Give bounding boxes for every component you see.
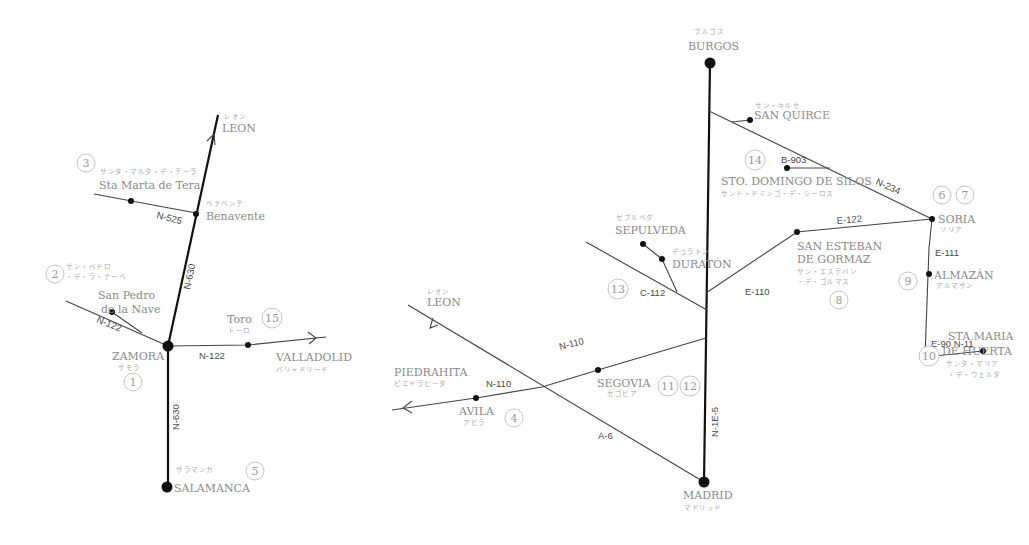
san-esteban-kana-2: ・デ・ゴルマス bbox=[797, 277, 850, 286]
san-pedro-label-2: de la Nave bbox=[101, 303, 161, 316]
badge-4: 4 bbox=[505, 409, 523, 427]
road-label-e110: E-110 bbox=[745, 286, 770, 297]
avila-kana: アビラ bbox=[463, 418, 486, 427]
road-label-a6: A-6 bbox=[598, 430, 613, 441]
sepulveda-dot bbox=[640, 241, 646, 247]
badge-2: 2 bbox=[46, 265, 64, 283]
soria-kana: ソリア bbox=[940, 226, 963, 234]
san-esteban-label-1: SAN ESTEBAN bbox=[797, 240, 883, 253]
burgos-kana: ブルゴス bbox=[694, 27, 724, 36]
sepulveda-kana: セプルベダ bbox=[616, 213, 654, 222]
leon-label: LEON bbox=[222, 122, 256, 135]
sepulveda-label: SEPULVEDA bbox=[615, 224, 687, 237]
san-pedro-label-1: San Pedro bbox=[98, 289, 155, 302]
svg-text:5: 5 bbox=[252, 465, 259, 478]
badge-10: 10 bbox=[919, 346, 939, 366]
road-label-n525: N-525 bbox=[156, 209, 184, 226]
road-label-n630-south: N-630 bbox=[170, 404, 181, 430]
sta-marta-kana: サンタ・マルタ・デ・テーラ bbox=[100, 167, 198, 176]
badge-1: 1 bbox=[124, 373, 142, 391]
avila-dot bbox=[473, 395, 479, 401]
segovia-kana: セゴビア bbox=[607, 389, 637, 398]
san-esteban-dot bbox=[794, 229, 800, 235]
benavente-kana: ベナベンテ bbox=[206, 200, 244, 208]
sta-maria-label-2: DE HUERTA bbox=[942, 345, 1013, 358]
benavente-label: Benavente bbox=[206, 210, 265, 223]
toro-label: Toro bbox=[227, 313, 252, 326]
san-esteban-label-2: DE GORMAZ bbox=[797, 253, 871, 266]
badge-8: 8 bbox=[830, 291, 848, 309]
right-map: ブルゴス BURGOS サン・キルセ SAN QUIRCE B-903 STO.… bbox=[392, 27, 1015, 512]
road-label-n122-east: N-122 bbox=[199, 350, 225, 361]
piedrahita-label: PIEDRAHITA bbox=[394, 366, 468, 379]
silos-dot bbox=[784, 165, 790, 171]
road-label-e111: E-111 bbox=[935, 247, 959, 258]
sta-maria-kana-2: ・デ・ウェルタ bbox=[948, 370, 1001, 379]
burgos-label: BURGOS bbox=[688, 40, 739, 53]
leon-kana-right: レオン bbox=[427, 288, 450, 296]
svg-text:6: 6 bbox=[939, 189, 946, 202]
svg-text:9: 9 bbox=[905, 275, 912, 288]
sta-marta-label: Sta Marta de Tera bbox=[99, 179, 201, 192]
road-a6 bbox=[408, 305, 704, 482]
svg-text:3: 3 bbox=[83, 157, 90, 170]
badge-13: 13 bbox=[608, 279, 628, 299]
duraton-label: DURATÓN bbox=[672, 257, 732, 271]
badge-15: 15 bbox=[262, 308, 282, 328]
madrid-kana: マドリッド bbox=[684, 504, 722, 512]
soria-dot bbox=[929, 216, 935, 222]
svg-text:12: 12 bbox=[683, 380, 697, 393]
salamanca-label: SALAMANCA bbox=[174, 482, 251, 495]
segovia-dot bbox=[595, 367, 601, 373]
badge-6: 6 bbox=[933, 186, 951, 204]
duraton-dot bbox=[659, 256, 665, 262]
badge-14: 14 bbox=[745, 150, 765, 170]
almazan-kana: アルマサン bbox=[936, 282, 974, 290]
road-label-e122: E-122 bbox=[836, 213, 862, 226]
svg-text:8: 8 bbox=[836, 294, 843, 307]
svg-text:10: 10 bbox=[922, 350, 936, 363]
leon-kana: レオン bbox=[224, 113, 247, 121]
salamanca-kana: サラマンカ bbox=[176, 466, 214, 474]
leon-label-right: LEON bbox=[427, 296, 461, 309]
zamora-kana: サモラ bbox=[118, 364, 141, 372]
soria-label: SORIA bbox=[938, 213, 976, 226]
valladolid-label: VALLADOLID bbox=[275, 351, 352, 364]
sta-marta-dot bbox=[128, 198, 134, 204]
silos-kana: サント・ドミンゴ・デ・シーロス bbox=[721, 189, 834, 198]
badge-3: 3 bbox=[77, 154, 95, 172]
svg-text:4: 4 bbox=[511, 412, 518, 425]
burgos-dot bbox=[705, 58, 716, 69]
road-label-b903: B-903 bbox=[781, 154, 806, 165]
piedrahita-kana: ピエドラヒータ bbox=[394, 379, 447, 388]
salamanca-dot bbox=[162, 482, 173, 493]
san-quirce-label: SAN QUIRCE bbox=[754, 109, 830, 122]
route-map: レオン LEON サンタ・マルタ・デ・テーラ Sta Marta de Tera… bbox=[0, 0, 1029, 545]
badge-7: 7 bbox=[956, 186, 974, 204]
zamora-label: ZAMORA bbox=[112, 350, 165, 363]
almazan-dot bbox=[926, 271, 932, 277]
road-label-n110-east: N-110 bbox=[558, 335, 585, 352]
san-esteban-kana-1: サン・エステバン bbox=[797, 268, 857, 276]
svg-text:13: 13 bbox=[611, 283, 625, 296]
sta-maria-kana-1: サンタ・マリア bbox=[946, 359, 999, 368]
avila-label: AVILA bbox=[458, 405, 495, 418]
toro-kana: トーロ bbox=[228, 327, 251, 335]
sta-maria-label-1: STA.MARIA bbox=[948, 330, 1015, 343]
silos-label: STO. DOMINGO DE SILOS bbox=[721, 175, 872, 188]
zamora-dot bbox=[163, 341, 174, 352]
road-n234 bbox=[709, 111, 932, 219]
san-pedro-kana-1: サン・ペドロ bbox=[66, 263, 111, 271]
madrid-label: MADRID bbox=[683, 489, 733, 502]
madrid-dot bbox=[699, 477, 710, 488]
road-n630-north bbox=[168, 115, 218, 346]
badge-12: 12 bbox=[680, 376, 700, 396]
san-quirce-dot bbox=[747, 117, 753, 123]
road-n525 bbox=[94, 194, 196, 213]
svg-text:2: 2 bbox=[52, 268, 59, 281]
san-pedro-kana-2: ・デ・ラ・ナーベ bbox=[66, 272, 126, 281]
left-map: レオン LEON サンタ・マルタ・デ・テーラ Sta Marta de Tera… bbox=[46, 113, 352, 495]
badge-9: 9 bbox=[899, 272, 917, 290]
road-label-n110-west: N-110 bbox=[486, 378, 511, 389]
svg-text:14: 14 bbox=[748, 154, 762, 167]
